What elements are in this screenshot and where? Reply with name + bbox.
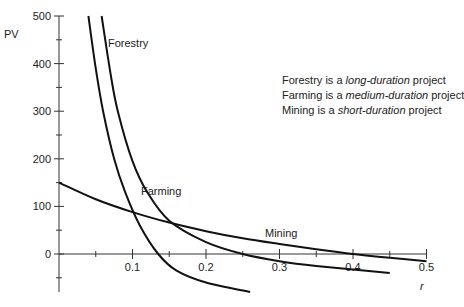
- forestry-label: Forestry: [108, 37, 149, 49]
- note-farming: Farming is a medium-duration project: [282, 88, 464, 103]
- y-tick-label: 400: [33, 58, 51, 70]
- note-forestry: Forestry is a long-duration project: [282, 73, 446, 88]
- y-axis-label: PV: [4, 28, 19, 40]
- x-tick-label: 0.1: [125, 261, 140, 273]
- x-tick-label: 0.2: [198, 261, 213, 273]
- x-axis-label: r: [420, 280, 425, 292]
- x-tick-label: 0.5: [419, 261, 434, 273]
- farming-label: Farming: [141, 185, 181, 197]
- y-tick-label: 500: [33, 10, 51, 22]
- y-tick-label: 100: [33, 200, 51, 212]
- curves: [59, 16, 427, 292]
- y-tick-label: 200: [33, 153, 51, 165]
- mining-curve: [59, 183, 427, 262]
- forestry-curve: [88, 16, 250, 292]
- axes: [59, 16, 427, 292]
- y-tick-label: 300: [33, 105, 51, 117]
- note-mining: Mining is a short-duration project: [282, 103, 442, 118]
- x-tick-label: 0.4: [345, 261, 360, 273]
- y-tick-label: 0: [45, 248, 51, 260]
- mining-label: Mining: [265, 227, 297, 239]
